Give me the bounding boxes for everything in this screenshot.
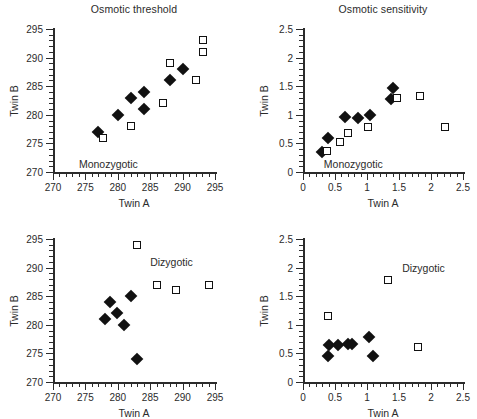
y-minor-tick xyxy=(299,348,303,349)
x-minor-tick xyxy=(329,383,330,387)
x-major-tick xyxy=(399,383,400,390)
x-minor-tick xyxy=(393,383,394,387)
x-major-tick xyxy=(303,383,304,390)
x-tick-label: 1 xyxy=(364,392,370,403)
x-tick-label: 1.5 xyxy=(392,392,406,403)
x-minor-tick xyxy=(457,383,458,387)
x-minor-tick xyxy=(354,383,355,387)
y-minor-tick xyxy=(299,302,303,303)
x-tick-label: 2 xyxy=(428,392,434,403)
y-minor-tick xyxy=(299,256,303,257)
x-minor-tick xyxy=(309,383,310,387)
y-tick-label: 0 xyxy=(261,377,293,388)
data-point-open-square xyxy=(324,312,332,320)
x-minor-tick xyxy=(373,383,374,387)
x-minor-tick xyxy=(412,383,413,387)
x-minor-tick xyxy=(380,383,381,387)
y-major-tick xyxy=(296,296,303,297)
y-minor-tick xyxy=(299,319,303,320)
y-minor-tick xyxy=(299,336,303,337)
y-tick-label: 2 xyxy=(261,262,293,273)
x-tick-label: 2.5 xyxy=(456,392,470,403)
y-tick-label: 2.5 xyxy=(261,234,293,245)
y-minor-tick xyxy=(299,308,303,309)
x-axis-line-bottom-right xyxy=(303,382,465,384)
y-minor-tick xyxy=(299,331,303,332)
x-tick-label: 0.5 xyxy=(328,392,342,403)
y-minor-tick xyxy=(299,273,303,274)
x-axis-title-bottom-right: Twin A xyxy=(368,407,399,419)
x-minor-tick xyxy=(316,383,317,387)
y-major-tick xyxy=(296,268,303,269)
y-major-tick xyxy=(296,239,303,240)
x-minor-tick xyxy=(405,383,406,387)
data-point-open-square xyxy=(384,276,392,284)
y-major-tick xyxy=(296,325,303,326)
x-minor-tick xyxy=(444,383,445,387)
x-minor-tick xyxy=(437,383,438,387)
y-minor-tick xyxy=(299,262,303,263)
y-minor-tick xyxy=(299,279,303,280)
data-point-filled-diamond xyxy=(363,331,376,344)
x-major-tick xyxy=(367,383,368,390)
x-minor-tick xyxy=(361,383,362,387)
y-minor-tick xyxy=(299,285,303,286)
y-axis-line-bottom-right xyxy=(303,238,305,383)
y-minor-tick xyxy=(299,365,303,366)
x-tick-label: 0 xyxy=(300,392,306,403)
data-point-filled-diamond xyxy=(367,349,380,362)
group-label-bottom-right: Dizygotic xyxy=(402,262,445,274)
y-minor-tick xyxy=(299,290,303,291)
y-minor-tick xyxy=(299,250,303,251)
x-minor-tick xyxy=(425,383,426,387)
y-axis-title-bottom-right: Twin B xyxy=(258,295,270,327)
y-minor-tick xyxy=(299,313,303,314)
y-minor-tick xyxy=(299,245,303,246)
x-minor-tick xyxy=(341,383,342,387)
y-minor-tick xyxy=(299,342,303,343)
data-point-open-square xyxy=(414,343,422,351)
y-minor-tick xyxy=(299,359,303,360)
x-minor-tick xyxy=(450,383,451,387)
x-major-tick xyxy=(463,383,464,390)
x-minor-tick xyxy=(322,383,323,387)
x-minor-tick xyxy=(348,383,349,387)
x-minor-tick xyxy=(386,383,387,387)
y-minor-tick xyxy=(299,371,303,372)
y-major-tick xyxy=(296,382,303,383)
y-tick-label: 0.5 xyxy=(261,348,293,359)
y-major-tick xyxy=(296,353,303,354)
x-minor-tick xyxy=(418,383,419,387)
y-minor-tick xyxy=(299,376,303,377)
x-major-tick xyxy=(335,383,336,390)
x-major-tick xyxy=(431,383,432,390)
